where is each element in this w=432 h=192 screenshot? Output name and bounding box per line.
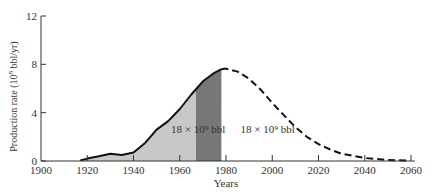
projected-line: [221, 69, 406, 161]
y-tick-label: 8: [32, 58, 38, 70]
y-axis-label: Production rate (108 bbl/yr): [7, 41, 20, 151]
x-tick-label: 2020: [308, 164, 331, 176]
x-tick-label: 1900: [30, 164, 53, 176]
plot-area: 0481219001920194019601980200020202040206…: [7, 10, 423, 189]
x-tick-label: 1980: [215, 164, 238, 176]
dark-shaded-region: [196, 69, 222, 161]
y-tick-label: 12: [26, 10, 37, 22]
x-tick-label: 1920: [76, 164, 99, 176]
production-chart: 0481219001920194019601980200020202040206…: [0, 0, 432, 192]
x-tick-label: 1960: [169, 164, 192, 176]
x-tick-label: 2000: [261, 164, 284, 176]
y-tick-label: 4: [32, 107, 38, 119]
x-axis-label: Years: [214, 177, 239, 189]
x-tick-label: 1940: [123, 164, 146, 176]
x-tick-label: 2060: [400, 164, 423, 176]
produced-annotation: 18 × 10⁹ bbl: [171, 123, 225, 135]
x-tick-label: 2040: [354, 164, 377, 176]
remaining-annotation: 18 × 10⁹ bbl: [240, 123, 294, 135]
